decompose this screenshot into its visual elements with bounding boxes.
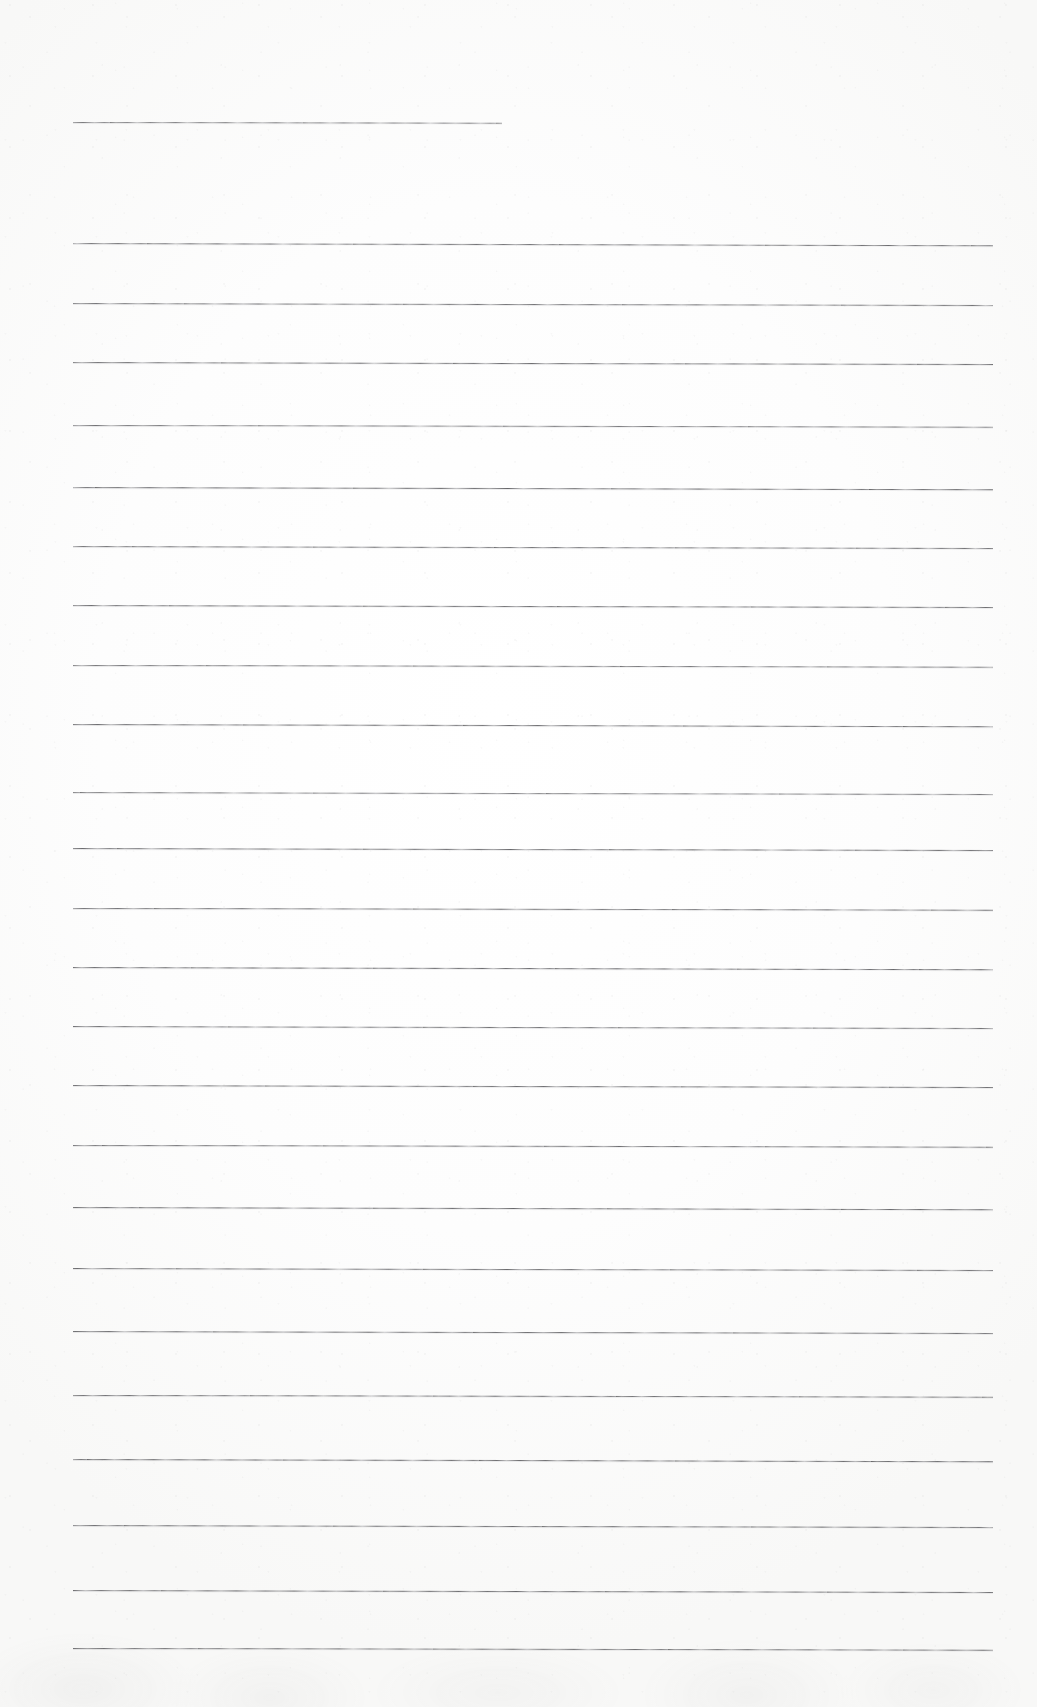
ruled-line bbox=[73, 1590, 993, 1592]
ruled-line bbox=[73, 1459, 993, 1461]
ruled-line-ink bbox=[73, 665, 993, 668]
ruled-line-ink bbox=[73, 1395, 993, 1398]
ruled-line bbox=[73, 425, 993, 427]
ruled-line bbox=[73, 908, 993, 910]
scanned-page bbox=[0, 0, 1037, 1707]
ruled-line-ink bbox=[73, 1590, 993, 1593]
ruled-line bbox=[73, 1207, 993, 1209]
ruled-line-ink bbox=[73, 546, 993, 549]
ruled-line-ink bbox=[73, 1459, 993, 1462]
ruled-line-ink bbox=[73, 1026, 993, 1029]
ruled-line-ink bbox=[73, 303, 993, 306]
ruled-line-ink bbox=[73, 1145, 993, 1148]
ruled-line bbox=[73, 303, 993, 305]
ruled-line-ink bbox=[73, 1648, 993, 1651]
ruled-line bbox=[73, 122, 502, 124]
ruled-line-ink bbox=[73, 243, 993, 246]
ruled-line bbox=[73, 1648, 993, 1650]
ruled-line bbox=[73, 362, 993, 364]
ruled-line bbox=[73, 243, 993, 245]
ruled-line-ink bbox=[73, 848, 993, 851]
ruled-line-ink bbox=[73, 1268, 993, 1271]
ruled-line bbox=[73, 967, 993, 969]
ruled-line-ink bbox=[73, 122, 502, 124]
ruled-line bbox=[73, 1395, 993, 1397]
ruled-line bbox=[73, 605, 993, 607]
ruled-line-ink bbox=[73, 792, 993, 795]
ruled-line bbox=[73, 1026, 993, 1028]
ruled-line bbox=[73, 1268, 993, 1270]
ruled-line-ink bbox=[73, 967, 993, 970]
ruled-line-ink bbox=[73, 487, 993, 490]
ruled-line bbox=[73, 792, 993, 794]
ruled-line bbox=[73, 848, 993, 850]
ruled-line-ink bbox=[73, 1085, 993, 1088]
ruled-line-ink bbox=[73, 605, 993, 608]
ruled-line bbox=[73, 1145, 993, 1147]
ruled-line bbox=[73, 1085, 993, 1087]
ruled-line bbox=[73, 546, 993, 548]
ruled-line bbox=[73, 1331, 993, 1333]
ruled-line-ink bbox=[73, 425, 993, 428]
ruled-line-ink bbox=[73, 1331, 993, 1334]
ruled-line bbox=[73, 665, 993, 667]
ruled-line-ink bbox=[73, 1525, 993, 1528]
ruled-line-ink bbox=[73, 362, 993, 365]
ruled-line-ink bbox=[73, 908, 993, 911]
ruled-line-ink bbox=[73, 1207, 993, 1210]
scan-bottom-edge-shadow bbox=[0, 1587, 1037, 1707]
ruled-line bbox=[73, 724, 993, 726]
paper-grain-texture bbox=[0, 0, 1037, 1707]
ruled-line-ink bbox=[73, 724, 993, 727]
ruled-line bbox=[73, 1525, 993, 1527]
ruled-line bbox=[73, 487, 993, 489]
